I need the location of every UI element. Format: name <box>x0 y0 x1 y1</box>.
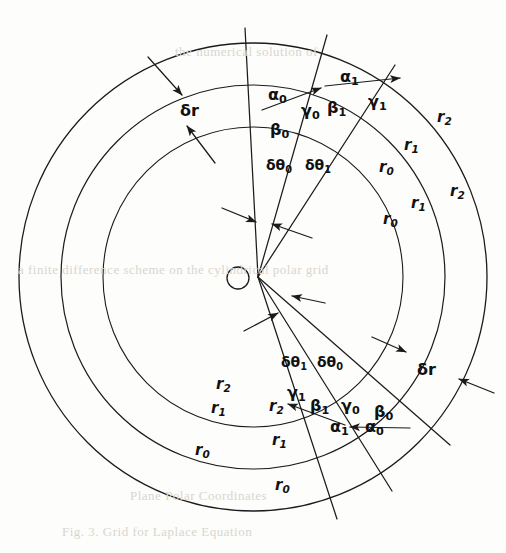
label-r0-upper-inner: r0 <box>379 160 394 176</box>
label-delta-r-top-left: δr <box>180 103 199 119</box>
label-r0-lower-outer-subscript: 0 <box>282 483 289 495</box>
delta-theta0-arrow-top <box>222 208 256 222</box>
label-beta1-top: β1 <box>327 100 346 118</box>
label-r1-upper-mid: r1 <box>404 138 419 154</box>
label-r0-lower-left-subscript: 0 <box>202 448 209 460</box>
label-gamma0-top-subscript: 0 <box>312 109 320 122</box>
label-r2-upper-outer: r2 <box>437 110 452 126</box>
label-dtheta0-bottom-subscript: 0 <box>336 361 343 372</box>
alpha1-chord-arrow-top <box>325 78 400 86</box>
ray-upper-1 <box>258 35 327 277</box>
label-dtheta0-top: δθ0 <box>266 158 292 175</box>
label-gamma1-top: γ1 <box>368 94 387 112</box>
label-r1-upper-mid-subscript: 1 <box>411 143 418 155</box>
label-r1-right-mid-subscript: 1 <box>418 201 425 213</box>
label-gamma1-top-subscript: 1 <box>379 100 387 113</box>
label-alpha0-top: α0 <box>268 87 287 105</box>
bleed-line-middle: a finite difference scheme on the cylind… <box>18 262 329 278</box>
label-alpha0-bottom: α0 <box>365 419 384 437</box>
label-alpha1-top-subscript: 1 <box>351 75 359 88</box>
label-beta0-top: β0 <box>270 122 289 140</box>
label-gamma0-bottom-subscript: 0 <box>352 404 360 417</box>
label-r0-upper-inner-subscript: 0 <box>386 165 393 177</box>
label-gamma0-top: γ0 <box>301 103 320 121</box>
label-r2-lower-inner: r2 <box>269 399 284 415</box>
label-beta1-top-subscript: 1 <box>338 106 346 119</box>
bleed-line-top: the numerical solution of <box>175 44 318 60</box>
label-beta0-bottom-subscript: 0 <box>385 410 393 423</box>
label-r2-right-outer-subscript: 2 <box>457 189 464 201</box>
label-r0-lower-outer: r0 <box>275 478 290 494</box>
label-dtheta1-bottom-subscript: 1 <box>300 361 307 372</box>
label-r2-upper-outer-subscript: 2 <box>444 115 451 127</box>
label-r2-right-outer: r2 <box>450 184 465 200</box>
label-alpha1-bottom: α1 <box>330 419 349 437</box>
ray-upper-0 <box>245 28 258 277</box>
ray-lower-1 <box>258 277 392 491</box>
label-dtheta1-bottom: δθ1 <box>281 355 307 372</box>
label-r1-lower-mid-subscript: 1 <box>279 438 286 450</box>
label-gamma0-bottom: γ0 <box>341 398 360 416</box>
delta-theta0-arrow-bottom <box>292 296 325 303</box>
bleed-line-bottom: Fig. 3. Grid for Laplace Equation <box>62 524 252 540</box>
label-r1-lower-mid: r1 <box>272 433 287 449</box>
label-dtheta1-top: δθ1 <box>305 158 331 175</box>
label-alpha0-bottom-subscript: 0 <box>376 425 384 438</box>
label-dtheta0-top-subscript: 0 <box>285 164 292 175</box>
label-dtheta0-bottom: δθ0 <box>317 355 343 372</box>
label-beta1-bottom: β1 <box>310 398 329 416</box>
delta-r-arrow-top-left-lower <box>187 126 215 163</box>
delta-theta1-arrow-top <box>272 224 312 238</box>
label-gamma1-bottom-subscript: 1 <box>298 391 306 404</box>
label-r2-lower-left: r2 <box>216 377 231 393</box>
bleed-line-lower: Plane Polar Coordinates <box>130 488 267 504</box>
label-r1-right-mid: r1 <box>411 196 426 212</box>
label-r0-right-inner-subscript: 0 <box>390 217 397 229</box>
label-r0-right-inner: r0 <box>383 212 398 228</box>
label-r2-lower-left-subscript: 2 <box>223 382 230 394</box>
label-beta0-top-subscript: 0 <box>281 128 289 141</box>
delta-r-arrow-bottom-right-lower <box>459 379 494 393</box>
label-delta-r-bottom-right: δr <box>417 362 436 378</box>
label-alpha1-bottom-subscript: 1 <box>341 425 349 438</box>
label-r1-lower-left: r1 <box>211 401 226 417</box>
label-r1-lower-left-subscript: 1 <box>218 406 225 418</box>
label-alpha1-top: α1 <box>340 69 359 87</box>
label-r0-lower-left: r0 <box>195 443 210 459</box>
label-beta1-bottom-subscript: 1 <box>321 404 329 417</box>
delta-r-arrow-top-left-upper <box>148 57 182 95</box>
label-gamma1-bottom: γ1 <box>287 385 306 403</box>
label-dtheta1-top-subscript: 1 <box>324 164 331 175</box>
label-alpha0-top-subscript: 0 <box>279 93 287 106</box>
label-r2-lower-inner-subscript: 2 <box>276 404 283 416</box>
